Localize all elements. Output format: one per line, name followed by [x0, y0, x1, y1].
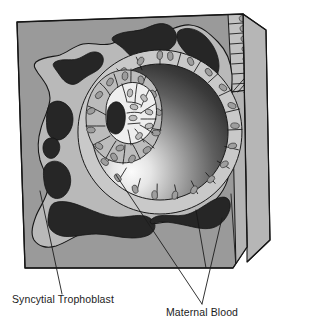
diagram-labels: Syncytial Trophoblast Maternal Blood — [12, 293, 238, 318]
diagram-canvas: Syncytial Trophoblast Maternal Blood — [0, 0, 316, 328]
endometrium-block — [17, 12, 270, 268]
embryology-diagram-figure: Syncytial Trophoblast Maternal Blood — [0, 0, 316, 328]
icm-cleft — [107, 102, 125, 134]
label-maternal-blood: Maternal Blood — [166, 306, 238, 318]
label-syncytial-trophoblast: Syncytial Trophoblast — [12, 293, 114, 305]
blood-lacuna-mid-left — [43, 138, 60, 159]
